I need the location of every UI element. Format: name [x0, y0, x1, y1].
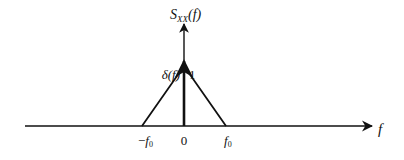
tick-label-pos-f0: f0	[224, 133, 232, 149]
tick-label-zero: 0	[181, 133, 188, 148]
impulse-weight-label: 1	[189, 67, 196, 82]
tick-label-neg-f0: −f0	[138, 133, 153, 149]
delta-label: δ(f)	[162, 67, 180, 82]
spectrum-diagram: SXX(f) δ(f) 1 −f0 0 f0 f	[0, 0, 404, 160]
y-axis-label: SXX(f)	[170, 7, 202, 24]
x-axis-label: f	[378, 121, 384, 137]
